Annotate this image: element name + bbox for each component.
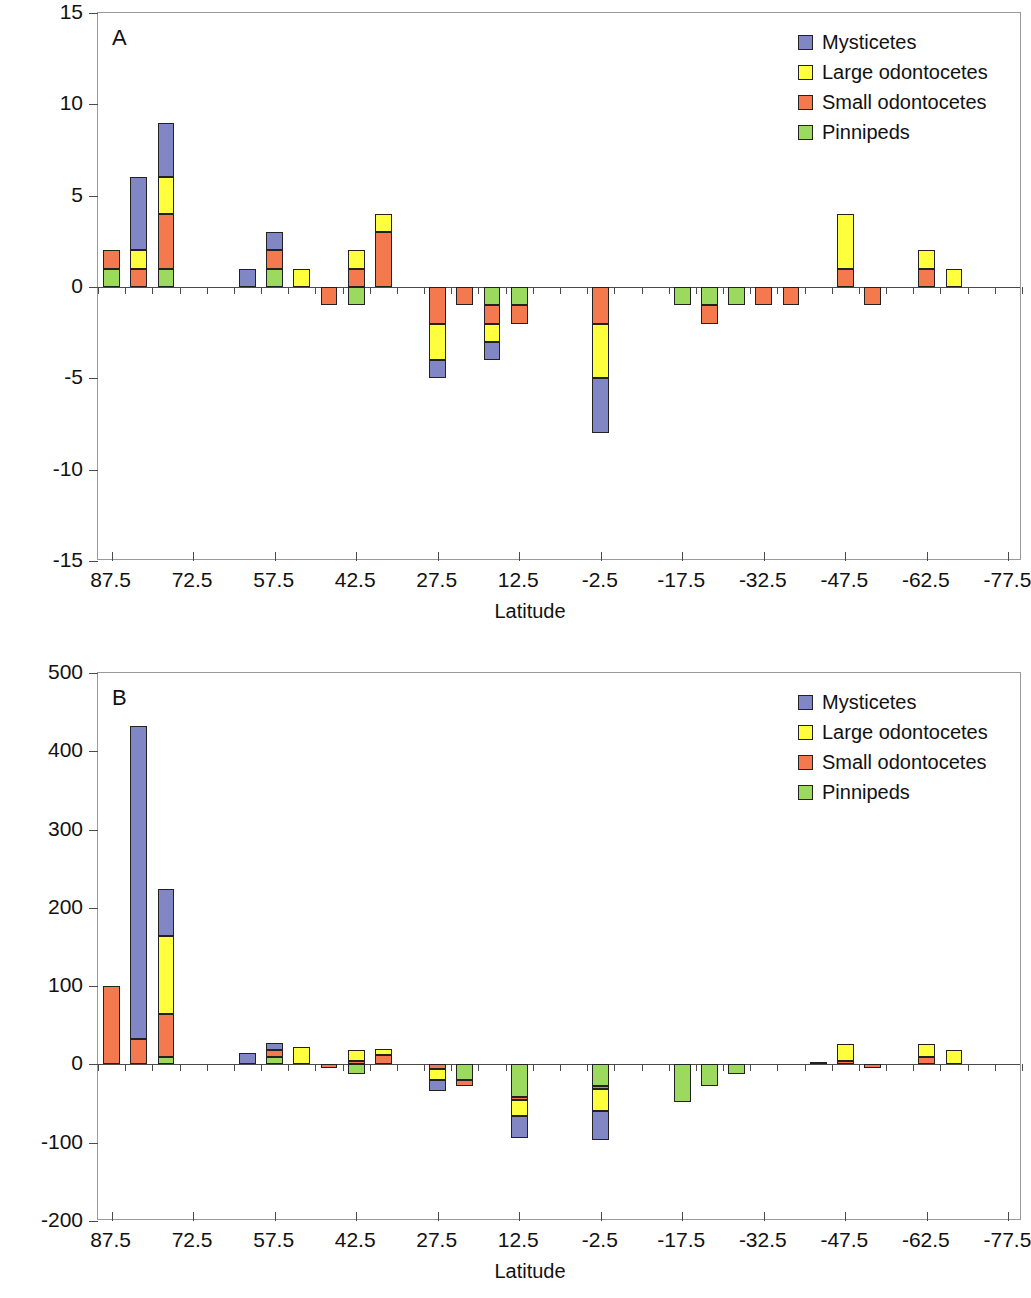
y-tick xyxy=(89,470,98,471)
x-tick xyxy=(234,287,235,294)
x-tick-major xyxy=(438,552,439,561)
panel-a-x-axis-title: Latitude xyxy=(40,600,1020,623)
x-tick-major xyxy=(112,1212,113,1221)
x-tick xyxy=(424,1064,425,1071)
bar-segment xyxy=(348,1050,365,1061)
x-tick xyxy=(533,287,534,294)
bar-segment xyxy=(429,287,446,324)
x-tick-major xyxy=(764,1212,765,1221)
legend-label: Large odontocetes xyxy=(822,721,988,744)
x-tick xyxy=(777,287,778,294)
legend-label: Large odontocetes xyxy=(822,61,988,84)
y-tick-label: 300 xyxy=(5,817,83,841)
x-tick xyxy=(750,1064,751,1071)
bar-segment xyxy=(946,269,963,287)
x-tick-major xyxy=(927,552,928,561)
x-tick-label: -47.5 xyxy=(820,1228,868,1252)
legend-row: Pinnipeds xyxy=(798,117,988,147)
x-tick-label: 12.5 xyxy=(498,568,539,592)
bar-segment xyxy=(158,123,175,178)
x-tick xyxy=(315,287,316,294)
legend-label: Mysticetes xyxy=(822,691,916,714)
x-tick xyxy=(587,1064,588,1071)
x-tick-label: 27.5 xyxy=(416,1228,457,1252)
bar-segment xyxy=(674,1064,691,1102)
y-tick-label: 0 xyxy=(5,1051,83,1075)
y-tick-label: 100 xyxy=(5,973,83,997)
x-tick xyxy=(125,287,126,294)
bar-segment xyxy=(918,1044,935,1057)
legend-swatch-small-odontocetes-icon xyxy=(798,95,813,110)
x-tick-major xyxy=(356,552,357,561)
bar-segment xyxy=(810,1062,827,1064)
bar-segment xyxy=(864,1064,881,1067)
x-tick xyxy=(995,1064,996,1071)
x-tick xyxy=(506,287,507,294)
x-tick-label: -47.5 xyxy=(820,568,868,592)
x-tick xyxy=(451,1064,452,1071)
y-tick xyxy=(89,196,98,197)
bar-segment xyxy=(103,986,120,1064)
y-tick xyxy=(89,378,98,379)
bar-segment xyxy=(158,214,175,269)
x-tick-label: -2.5 xyxy=(582,568,618,592)
x-tick xyxy=(370,1064,371,1071)
x-tick xyxy=(913,1064,914,1071)
y-tick-label: -5 xyxy=(5,365,83,389)
panel-a-legend: MysticetesLarge odontocetesSmall odontoc… xyxy=(798,27,988,147)
x-tick xyxy=(152,287,153,294)
bar-segment xyxy=(429,1080,446,1091)
x-tick xyxy=(696,1064,697,1071)
bar-segment xyxy=(266,1050,283,1056)
bar-segment xyxy=(837,269,854,287)
legend-label: Pinnipeds xyxy=(822,121,910,144)
legend-row: Mysticetes xyxy=(798,687,988,717)
x-tick xyxy=(506,1064,507,1071)
x-tick xyxy=(805,287,806,294)
bar-segment xyxy=(456,1064,473,1080)
x-tick xyxy=(261,287,262,294)
x-tick xyxy=(207,1064,208,1071)
x-tick-major xyxy=(193,1212,194,1221)
y-tick-label: -10 xyxy=(5,457,83,481)
x-tick-label: 57.5 xyxy=(253,1228,294,1252)
bar-segment xyxy=(375,1055,392,1064)
x-tick-label: 72.5 xyxy=(172,1228,213,1252)
x-tick xyxy=(560,287,561,294)
x-tick xyxy=(533,1064,534,1071)
legend-label: Mysticetes xyxy=(822,31,916,54)
bar-segment xyxy=(511,305,528,323)
bar-segment xyxy=(755,287,772,305)
y-tick-label: 400 xyxy=(5,738,83,762)
x-tick xyxy=(397,287,398,294)
bar-segment xyxy=(266,1057,283,1065)
bar-segment xyxy=(592,1064,609,1086)
y-tick xyxy=(89,1221,98,1222)
x-tick xyxy=(859,1064,860,1071)
x-tick xyxy=(478,287,479,294)
bar-segment xyxy=(348,1061,365,1064)
bar-segment xyxy=(375,1049,392,1055)
x-tick-major xyxy=(112,552,113,561)
x-tick xyxy=(180,1064,181,1071)
bar-segment xyxy=(511,1064,528,1097)
x-tick xyxy=(642,1064,643,1071)
x-tick-label: -32.5 xyxy=(739,1228,787,1252)
x-tick-label: 42.5 xyxy=(335,1228,376,1252)
legend-row: Small odontocetes xyxy=(798,87,988,117)
x-tick-label: -62.5 xyxy=(902,1228,950,1252)
x-tick xyxy=(370,287,371,294)
legend-label: Pinnipeds xyxy=(822,781,910,804)
x-tick xyxy=(614,287,615,294)
bar-segment xyxy=(484,305,501,323)
bar-segment xyxy=(429,1069,446,1080)
bar-segment xyxy=(456,1080,473,1086)
y-tick-label: 15 xyxy=(5,0,83,24)
x-tick xyxy=(614,1064,615,1071)
x-tick-major xyxy=(845,1212,846,1221)
x-tick-major xyxy=(438,1212,439,1221)
x-tick-major xyxy=(764,552,765,561)
bar-segment xyxy=(918,250,935,268)
bar-segment xyxy=(511,287,528,305)
panel-b-x-axis-title: Latitude xyxy=(40,1260,1020,1283)
